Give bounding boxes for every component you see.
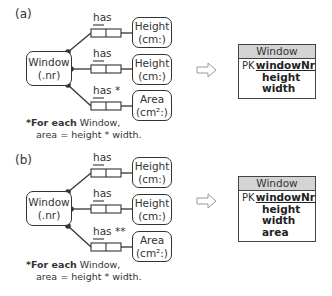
footnote-line1: Window, bbox=[77, 117, 121, 128]
height-value-type: Height (cm:) bbox=[132, 157, 172, 188]
attribute: width bbox=[262, 215, 295, 227]
fact-box-2 bbox=[91, 201, 132, 213]
role-label: has ** bbox=[93, 225, 125, 237]
key-label bbox=[239, 204, 262, 216]
entity-ref: (.nr) bbox=[27, 69, 71, 82]
footnote: *For each Window, area = height * width. bbox=[26, 259, 141, 283]
window-entity: Window (.nr) bbox=[26, 191, 72, 226]
key-label bbox=[239, 72, 262, 84]
value-type-name: Height bbox=[133, 160, 171, 173]
value-type-unit: (cm:) bbox=[133, 173, 171, 186]
relational-table: Window PK windowNr height width bbox=[238, 44, 316, 99]
attribute: width bbox=[262, 83, 295, 95]
table-row: PK windowNr bbox=[239, 60, 315, 72]
value-type-unit: (cm:) bbox=[133, 210, 171, 223]
footnote-line2: area = height * width. bbox=[26, 129, 141, 141]
entity-name: Window bbox=[27, 196, 71, 209]
role-label: has bbox=[93, 11, 112, 23]
panel-a: (a) Window (.nr) bbox=[0, 0, 332, 148]
fact-box-3 bbox=[91, 239, 132, 251]
value-type-unit: (cm:) bbox=[133, 33, 171, 46]
footnote-bold: *For each bbox=[26, 117, 77, 128]
table-row: PK windowNr bbox=[239, 192, 315, 204]
area-value-type: Area (cm²:) bbox=[132, 231, 172, 262]
role-label: has bbox=[93, 187, 112, 199]
role-label: has * bbox=[93, 84, 120, 96]
role-label: has bbox=[93, 47, 112, 59]
value-type-name: Height bbox=[133, 20, 171, 33]
fact-box-1 bbox=[91, 165, 132, 177]
value-type-name: Area bbox=[133, 234, 171, 247]
key-label bbox=[239, 227, 262, 239]
value-type-name: Area bbox=[133, 93, 171, 106]
table-row: area bbox=[239, 227, 315, 239]
role-label: has bbox=[93, 151, 112, 163]
key-label bbox=[239, 215, 262, 227]
entity-name: Window bbox=[27, 56, 71, 69]
height-value-type: Height (cm:) bbox=[132, 17, 172, 48]
footnote: *For each Window, area = height * width. bbox=[26, 117, 141, 141]
fact-box-3 bbox=[91, 98, 132, 110]
key-label: PK bbox=[239, 60, 256, 72]
relational-table: Window PK windowNr height width area bbox=[238, 176, 316, 242]
attribute: windowNr bbox=[256, 60, 315, 72]
key-label: PK bbox=[239, 192, 256, 204]
value-type-name: Height bbox=[133, 57, 171, 70]
height-value-type: Height (cm:) bbox=[132, 194, 172, 225]
entity-ref: (.nr) bbox=[27, 209, 71, 222]
footnote-line1: Window, bbox=[77, 259, 121, 270]
table-title: Window bbox=[239, 177, 315, 191]
key-label bbox=[239, 83, 262, 95]
attribute: windowNr bbox=[256, 192, 315, 204]
arrow-right-icon bbox=[196, 193, 218, 209]
table-row: width bbox=[239, 83, 315, 95]
value-type-unit: (cm²:) bbox=[133, 247, 171, 260]
footnote-bold: *For each bbox=[26, 259, 77, 270]
panel-b: (b) Window (.nr) has has ha bbox=[0, 146, 332, 294]
arrow-right-icon bbox=[196, 62, 218, 78]
table-row: width bbox=[239, 215, 315, 227]
height-value-type: Height (cm:) bbox=[132, 54, 172, 85]
attribute: area bbox=[262, 227, 288, 239]
table-title: Window bbox=[239, 45, 315, 59]
value-type-name: Height bbox=[133, 197, 171, 210]
fact-box-2 bbox=[91, 61, 132, 73]
footnote-line2: area = height * width. bbox=[26, 271, 141, 283]
fact-box-1 bbox=[91, 25, 132, 37]
value-type-unit: (cm:) bbox=[133, 70, 171, 83]
window-entity: Window (.nr) bbox=[26, 51, 72, 86]
